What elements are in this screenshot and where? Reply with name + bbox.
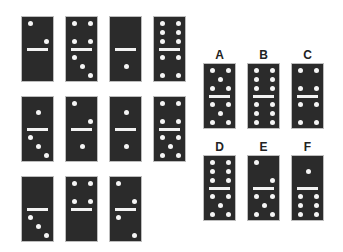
option-label-c: C bbox=[291, 48, 324, 62]
pip bbox=[176, 55, 181, 60]
pip bbox=[210, 120, 215, 125]
pip bbox=[226, 68, 231, 73]
pip bbox=[176, 101, 181, 106]
option-label-a: A bbox=[203, 48, 236, 62]
pip bbox=[254, 111, 259, 116]
option-label-e: E bbox=[247, 140, 280, 154]
pip bbox=[226, 169, 231, 174]
pip bbox=[176, 39, 181, 44]
option-domino-b[interactable] bbox=[247, 63, 280, 129]
pip bbox=[210, 160, 215, 165]
domino-divider bbox=[209, 187, 230, 190]
pip bbox=[80, 144, 85, 149]
pip bbox=[72, 21, 77, 26]
pip bbox=[210, 212, 215, 217]
pip bbox=[298, 120, 303, 125]
pip bbox=[28, 21, 33, 26]
pip bbox=[132, 233, 137, 238]
pip bbox=[88, 199, 93, 204]
sequence-domino-8 bbox=[153, 96, 186, 162]
pip bbox=[270, 102, 275, 107]
pip bbox=[176, 30, 181, 35]
sequence-domino-1 bbox=[21, 16, 54, 82]
pip bbox=[298, 194, 303, 199]
pip bbox=[270, 120, 275, 125]
pip bbox=[44, 153, 49, 158]
sequence-domino-9 bbox=[21, 176, 54, 242]
pip bbox=[254, 160, 259, 165]
domino-divider bbox=[253, 187, 274, 190]
pip bbox=[226, 86, 231, 91]
pip bbox=[160, 55, 165, 60]
pip bbox=[226, 160, 231, 165]
pip bbox=[36, 110, 41, 115]
option-domino-a[interactable] bbox=[203, 63, 236, 129]
domino-divider bbox=[71, 128, 92, 131]
pip bbox=[132, 199, 137, 204]
pip bbox=[254, 102, 259, 107]
pip bbox=[72, 39, 77, 44]
pip bbox=[72, 55, 77, 60]
sequence-domino-4 bbox=[153, 16, 186, 82]
domino-divider bbox=[159, 128, 180, 131]
sequence-domino-3 bbox=[109, 16, 142, 82]
option-domino-d[interactable] bbox=[203, 155, 236, 221]
pip bbox=[88, 119, 93, 124]
pip bbox=[226, 178, 231, 183]
sequence-domino-7 bbox=[109, 96, 142, 162]
pip bbox=[270, 178, 275, 183]
pip bbox=[254, 68, 259, 73]
pip bbox=[218, 203, 223, 208]
pip bbox=[314, 203, 319, 208]
pip bbox=[314, 212, 319, 217]
pip bbox=[270, 86, 275, 91]
pip bbox=[176, 119, 181, 124]
pip bbox=[226, 102, 231, 107]
sequence-domino-6 bbox=[65, 96, 98, 162]
domino-divider bbox=[115, 128, 136, 131]
pip bbox=[226, 194, 231, 199]
pip bbox=[88, 21, 93, 26]
pip bbox=[44, 39, 49, 44]
pip bbox=[80, 64, 85, 69]
pip bbox=[176, 135, 181, 140]
pip bbox=[168, 144, 173, 149]
pip bbox=[72, 181, 77, 186]
sequence-domino-10 bbox=[65, 176, 98, 242]
sequence-domino-2 bbox=[65, 16, 98, 82]
option-domino-e[interactable] bbox=[247, 155, 280, 221]
option-domino-c[interactable] bbox=[291, 63, 324, 129]
pip bbox=[160, 153, 165, 158]
pip bbox=[254, 212, 259, 217]
pip bbox=[254, 194, 259, 199]
pip bbox=[298, 203, 303, 208]
pip bbox=[210, 102, 215, 107]
pip bbox=[88, 73, 93, 78]
domino-divider bbox=[209, 95, 230, 98]
pip bbox=[176, 153, 181, 158]
pip bbox=[210, 194, 215, 199]
option-domino-f[interactable] bbox=[291, 155, 324, 221]
pip bbox=[210, 68, 215, 73]
pip bbox=[218, 77, 223, 82]
domino-divider bbox=[27, 48, 48, 51]
domino-divider bbox=[71, 208, 92, 211]
pip bbox=[72, 101, 77, 106]
domino-divider bbox=[115, 48, 136, 51]
pip bbox=[210, 169, 215, 174]
domino-divider bbox=[71, 48, 92, 51]
pip bbox=[254, 77, 259, 82]
pip bbox=[270, 111, 275, 116]
pip bbox=[298, 212, 303, 217]
pip bbox=[160, 30, 165, 35]
option-label-b: B bbox=[247, 48, 280, 62]
pip bbox=[262, 203, 267, 208]
sequence-domino-5 bbox=[21, 96, 54, 162]
pip bbox=[314, 120, 319, 125]
pip bbox=[254, 86, 259, 91]
pip bbox=[116, 215, 121, 220]
domino-divider bbox=[115, 208, 136, 211]
pip bbox=[298, 86, 303, 91]
pip bbox=[88, 39, 93, 44]
option-label-f: F bbox=[291, 140, 324, 154]
